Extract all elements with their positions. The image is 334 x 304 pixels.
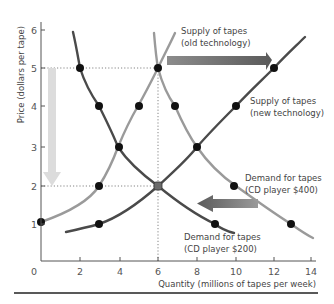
- point-old-supply-5-4: [135, 102, 143, 110]
- y-tick-6: 6: [31, 25, 37, 36]
- y-tick-4: 4: [31, 101, 37, 112]
- demand-shift-arrow-icon: [197, 195, 258, 212]
- point-equilibrium-6-5: [154, 64, 162, 72]
- x-tick-14: 14: [305, 266, 317, 277]
- point-new-supply-12-5: [270, 64, 278, 72]
- point-demand200-2-5: [76, 64, 84, 72]
- label-supply-old: Supply of tapes (old technology): [181, 26, 251, 48]
- y-tick-2: 2: [31, 181, 37, 192]
- svg-text:(old technology): (old technology): [181, 38, 251, 48]
- point-3-3: [115, 143, 123, 151]
- point-demand400-13-1: [287, 220, 295, 228]
- y-axis-title: Price (dollars per tape): [16, 26, 26, 123]
- x-tick-2: 2: [77, 266, 83, 277]
- svg-text:(CD player $400): (CD player $400): [245, 185, 318, 195]
- guide-lines: [41, 68, 158, 261]
- x-tick-labels: 0 2 4 6 8 10 12 14: [31, 266, 317, 277]
- x-tick-10: 10: [230, 266, 242, 277]
- y-tick-labels: 6 5 4 3 2 1: [31, 25, 37, 230]
- point-equilibrium-6-2: [154, 182, 162, 190]
- point-new-supply-10-4: [232, 102, 240, 110]
- svg-text:Supply of tapes: Supply of tapes: [250, 96, 317, 106]
- label-supply-new: Supply of tapes (new technology): [250, 96, 324, 118]
- label-demand-200: Demand for tapes (CD player $200): [184, 232, 261, 254]
- y-tick-1: 1: [31, 219, 37, 230]
- x-tick-0: 0: [31, 266, 37, 277]
- point-demand200-9-1: [211, 220, 219, 228]
- point-demand400-7-4: [171, 102, 179, 110]
- x-tick-6: 6: [155, 266, 161, 277]
- point-demand200-3-4: [95, 102, 103, 110]
- point-8-3: [193, 143, 201, 151]
- svg-text:(CD player $200): (CD player $200): [184, 244, 257, 254]
- svg-text:Demand for tapes: Demand for tapes: [184, 232, 261, 242]
- supply-old-technology-curve: [41, 33, 175, 222]
- label-demand-400: Demand for tapes (CD player $400): [245, 173, 322, 195]
- x-tick-4: 4: [117, 266, 123, 277]
- supply-demand-chart: 6 5 4 3 2 1 0 2 4 6 8 10 12 14 Quantity …: [0, 0, 334, 304]
- x-axis-title: Quantity (millions of tapes per week): [158, 279, 316, 289]
- x-tick-12: 12: [268, 266, 280, 277]
- x-tick-8: 8: [194, 266, 200, 277]
- point-new-supply-3-1: [95, 220, 103, 228]
- y-tick-5: 5: [31, 63, 37, 74]
- svg-text:Supply of tapes: Supply of tapes: [181, 26, 248, 36]
- price-fall-arrow-icon: [43, 68, 61, 186]
- supply-new-technology-curve: [66, 37, 305, 232]
- svg-text:(new technology): (new technology): [250, 108, 324, 118]
- y-tick-3: 3: [31, 142, 37, 153]
- point-old-supply-3-2: [95, 182, 103, 190]
- svg-text:Demand for tapes: Demand for tapes: [245, 173, 322, 183]
- point-demand400-10-2: [230, 182, 238, 190]
- supply-shift-arrow-icon: [167, 52, 272, 70]
